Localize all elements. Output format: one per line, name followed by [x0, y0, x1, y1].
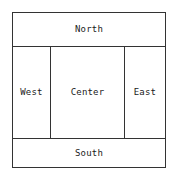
region-center[interactable]: Center — [51, 47, 125, 138]
region-south-label: South — [75, 149, 103, 158]
region-north-label: North — [75, 25, 103, 34]
region-west[interactable]: West — [13, 47, 51, 138]
region-east-label: East — [134, 88, 156, 97]
region-east[interactable]: East — [125, 47, 165, 138]
region-west-label: West — [20, 88, 42, 97]
border-layout-diagram: North West Center East South — [12, 12, 166, 168]
region-south[interactable]: South — [13, 138, 165, 167]
region-north[interactable]: North — [13, 13, 165, 47]
region-middle-band: West Center East — [13, 47, 165, 138]
region-center-label: Center — [71, 88, 105, 97]
